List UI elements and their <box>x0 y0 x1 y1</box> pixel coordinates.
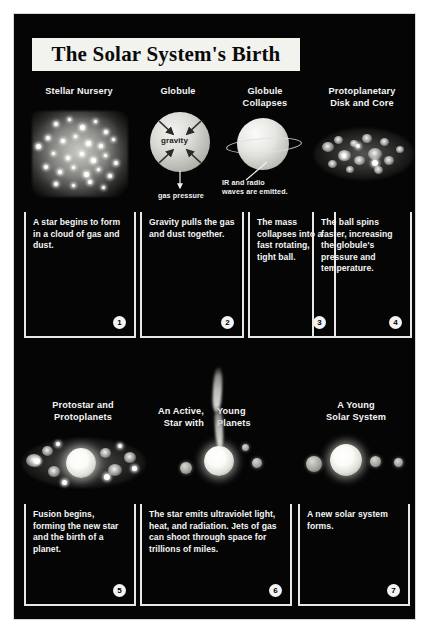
young-star <box>204 446 234 476</box>
protoplanet-bright <box>132 466 137 471</box>
star-dot <box>58 170 62 174</box>
star-dot <box>112 138 115 141</box>
artwork-young-solar-system <box>302 430 414 494</box>
disk-clump <box>362 134 372 143</box>
star-dot <box>54 182 58 186</box>
star-dot <box>88 180 92 184</box>
star-dot <box>80 152 84 156</box>
star-dot <box>91 158 96 163</box>
disk-bright-knot <box>356 144 360 148</box>
ir-radio-label-line1: IR and radio <box>222 178 265 187</box>
infographic-poster: The Solar System's Birth Stellar Nursery… <box>13 13 416 620</box>
caption-text-5: Fusion begins, forming the new star and … <box>33 509 127 555</box>
title-banner: The Solar System's Birth <box>32 38 300 71</box>
panel-heading-3-line1: Globule <box>220 86 310 98</box>
star-dot <box>52 152 55 155</box>
disk-clump <box>368 148 382 160</box>
planet-3 <box>394 458 403 467</box>
star-dot <box>86 141 91 146</box>
protoplanet-bright <box>118 444 122 448</box>
step-badge-2: 2 <box>221 316 234 329</box>
step-badge-6: 6 <box>269 584 282 597</box>
ir-radio-label-line2: waves are emitted. <box>222 187 288 196</box>
protoplanet-clump <box>108 464 122 476</box>
caption-box-6: The star emits ultraviolet light, heat, … <box>140 504 292 606</box>
caption-box-1: A star begins to form in a cloud of gas … <box>24 212 136 338</box>
star-dot <box>99 144 103 148</box>
disk-bright-knot <box>342 154 346 158</box>
step-badge-7: 7 <box>387 584 400 597</box>
protoplanet-bright <box>62 480 67 485</box>
planet-2 <box>370 456 381 467</box>
step-badge-4: 4 <box>389 316 402 329</box>
panel-heading-3-line2: Collapses <box>220 98 310 110</box>
star-dot <box>102 186 105 189</box>
star-dot <box>54 122 58 126</box>
disk-clump <box>374 166 383 174</box>
star-dot <box>72 166 75 169</box>
young-solar-system-star <box>330 444 362 476</box>
disk-clump <box>396 146 404 153</box>
star-dot <box>114 161 118 165</box>
star-dot <box>94 120 97 123</box>
protoplanet-clump <box>48 466 60 477</box>
planet-upper-right <box>242 444 249 451</box>
star-dot <box>108 174 112 178</box>
panel-heading-2: Globule <box>138 86 218 98</box>
star-dot <box>97 168 100 171</box>
caption-box-5: Fusion begins, forming the new star and … <box>24 504 136 606</box>
star-dot <box>66 156 70 160</box>
gas-jet-lower <box>214 406 224 450</box>
panel-heading-4: Protoplanetary Disk and Core <box>312 86 412 109</box>
star-dot <box>46 136 50 140</box>
protoplanet-bright <box>34 458 40 464</box>
disk-clump <box>354 156 365 165</box>
disk-clump <box>380 138 389 146</box>
step-badge-1: 1 <box>113 316 126 329</box>
disk-clump <box>384 156 394 165</box>
gas-pressure-label: gas pressure <box>148 191 214 200</box>
disk-clump <box>328 160 337 168</box>
panel-heading-4-line1: Protoplanetary <box>312 86 412 98</box>
protoplanet-bright <box>56 442 60 446</box>
artwork-protoplanetary-disk <box>312 112 416 198</box>
panel-heading-5: Protostar and Protoplanets <box>24 400 142 423</box>
gravity-label: gravity <box>161 136 188 145</box>
caption-text-7: A new solar system forms. <box>307 509 401 532</box>
caption-text-6: The star emits ultraviolet light, heat, … <box>149 509 283 555</box>
disk-clump <box>322 142 334 152</box>
disk-clump <box>334 136 343 144</box>
star-dot <box>36 144 41 149</box>
panel-heading-3: Globule Collapses <box>220 86 310 109</box>
protoplanet-bright <box>104 474 110 480</box>
caption-text-1: A star begins to form in a cloud of gas … <box>33 217 127 252</box>
panel-heading-5-line2: Protoplanets <box>24 412 142 424</box>
panel-heading-4-line2: Disk and Core <box>312 98 412 110</box>
panel-heading-7-line1: A Young <box>302 400 410 412</box>
artwork-protostar-protoplanets <box>20 426 148 498</box>
caption-text-2: Gravity pulls the gas and dust together. <box>149 217 235 240</box>
star-dot <box>44 165 48 169</box>
star-dot <box>104 130 108 134</box>
caption-box-2: Gravity pulls the gas and dust together.… <box>140 212 244 338</box>
step-badge-5: 5 <box>113 584 126 597</box>
artwork-globule: gravity gas pressure <box>140 108 220 206</box>
protoplanet-clump <box>100 448 111 458</box>
panel-heading-7-line2: Solar System <box>302 412 410 424</box>
planet-left <box>180 462 192 474</box>
artwork-stellar-nursery <box>28 108 134 200</box>
page-title: The Solar System's Birth <box>51 42 280 67</box>
panel-heading-5-line1: Protostar and <box>24 400 142 412</box>
planet-1 <box>306 456 322 472</box>
star-dot <box>61 139 65 143</box>
caption-text-4: The ball spins faster, increasing the gl… <box>321 217 403 275</box>
planet-right <box>252 458 262 468</box>
star-dot <box>84 172 89 177</box>
disk-clump <box>346 166 354 173</box>
protostar <box>66 448 96 478</box>
star-dot <box>72 184 75 187</box>
artwork-globule-collapses: IR and radio waves are emitted. <box>222 110 310 206</box>
panel-heading-1: Stellar Nursery <box>24 86 134 98</box>
protoplanet-clump <box>42 446 53 456</box>
artwork-active-young-star <box>148 362 296 492</box>
